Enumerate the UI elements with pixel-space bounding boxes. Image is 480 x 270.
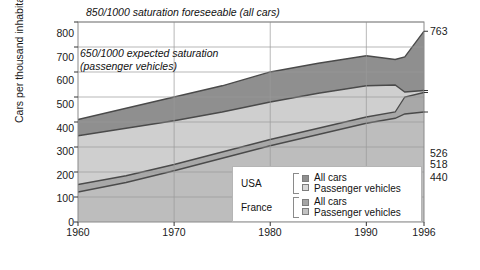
x-tick-1996: 1996 [412, 226, 435, 238]
legend-swatch-usa-all-cars [302, 175, 309, 182]
annotation-line-2: (passenger vehicles) [80, 60, 177, 72]
legend-country-france: France [241, 202, 293, 213]
legend-swatch-france-passenger [302, 208, 309, 215]
annotation-saturation-all-cars: 850/1000 saturation foreseeable (all car… [86, 6, 280, 19]
chart-legend: USA All cars Passenger vehicles France A… [232, 166, 422, 222]
legend-swatches-france [302, 199, 309, 215]
x-tick-1960: 1960 [66, 226, 89, 238]
legend-label-usa-passenger: Passenger vehicles [314, 183, 401, 194]
end-label-518: 518 [430, 158, 448, 170]
legend-swatches-usa [302, 175, 309, 191]
legend-swatch-france-all-cars [302, 199, 309, 206]
legend-label-france-passenger: Passenger vehicles [314, 207, 401, 218]
legend-bracket-usa [293, 173, 299, 194]
legend-labels-france: All cars Passenger vehicles [314, 196, 401, 218]
legend-bracket-france [293, 197, 299, 218]
x-tick-1980: 1980 [258, 226, 281, 238]
legend-label-france-all-cars: All cars [314, 196, 401, 207]
x-tick-1990: 1990 [354, 226, 377, 238]
legend-swatch-usa-passenger [302, 184, 309, 191]
annotation-line-1: 650/1000 expected saturation [80, 47, 218, 59]
legend-group-usa: USA All cars Passenger vehicles [241, 172, 401, 194]
chart-root: Cars per thousand inhabitants 800 700 60… [0, 0, 480, 270]
legend-label-usa-all-cars: All cars [314, 172, 401, 183]
legend-labels-usa: All cars Passenger vehicles [314, 172, 401, 194]
end-label-440: 440 [430, 171, 448, 183]
annotation-saturation-passenger: 650/1000 expected saturation (passenger … [80, 47, 218, 72]
x-tick-1970: 1970 [162, 226, 185, 238]
legend-group-france: France All cars Passenger vehicles [241, 196, 401, 218]
end-label-763: 763 [430, 25, 448, 37]
legend-country-usa: USA [241, 178, 293, 189]
